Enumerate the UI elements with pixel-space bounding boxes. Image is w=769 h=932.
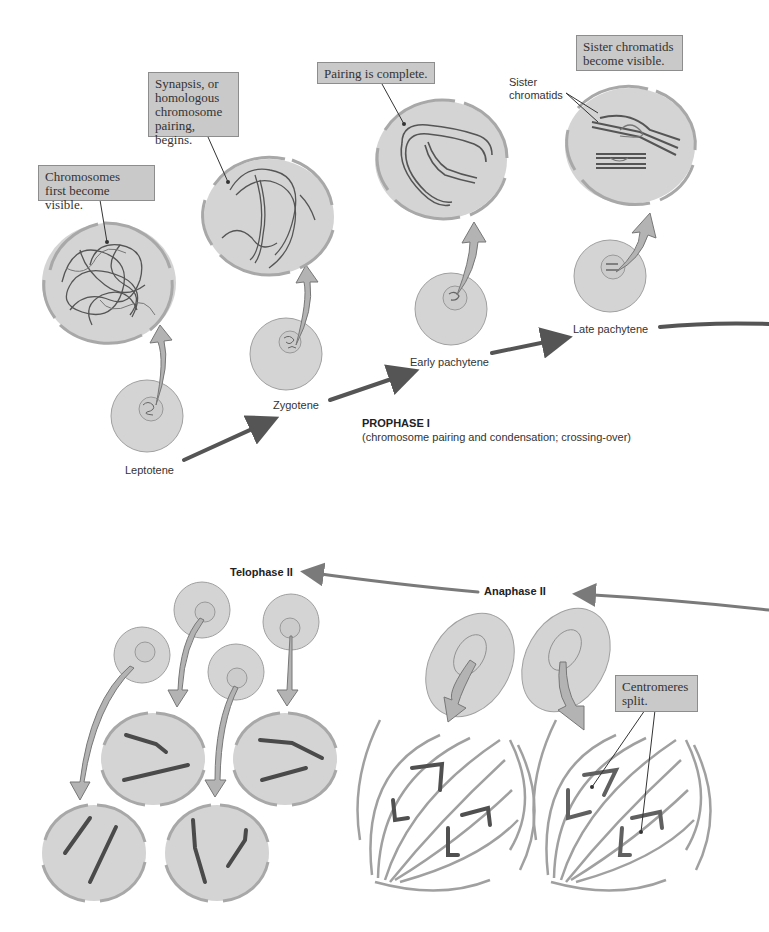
meiosis-diagram: Chromosomes first become visible. Synaps…: [0, 0, 769, 932]
leptotene-callout: Chromosomes first become visible.: [38, 165, 155, 201]
diagram-graphics: [0, 0, 769, 932]
leptotene-label: Leptotene: [125, 464, 174, 476]
zygotene-callout-pointer: [208, 137, 228, 182]
early-pachytene-callout: Pairing is complete.: [317, 62, 435, 84]
early-pachytene-small-cell: [415, 273, 487, 345]
zygotene-label: Zygotene: [273, 399, 319, 411]
anaphase-ii-chromosomes-right: [568, 770, 662, 855]
late-pachytene-callout: Sister chromatids become visible.: [576, 35, 683, 71]
anaphase-ii-small-cells: [408, 592, 628, 732]
telophase-ii-daughter-cells: [42, 713, 337, 901]
early-pachytene-label: Early pachytene: [410, 356, 489, 368]
leptotene-nucleus: [42, 223, 176, 343]
prophase-title: PROPHASE I: [362, 417, 430, 429]
telophase-ii-label: Telophase II: [230, 566, 293, 578]
anaphase-ii-chromosomes-left: [393, 764, 490, 855]
prophase-subtitle: (chromosome pairing and condensation; cr…: [362, 431, 631, 443]
anaphase-ii-spindle-left: [358, 720, 535, 891]
anaphase-ii-label: Anaphase II: [484, 585, 546, 597]
zygotene-nucleus: [203, 157, 334, 275]
late-pachytene-label: Late pachytene: [573, 323, 648, 335]
anaphase-ii-spindle-right: [534, 720, 711, 891]
leptotene-small-cell: [111, 380, 183, 452]
zygotene-callout: Synapsis, or homologous chromosome pairi…: [148, 72, 239, 137]
zygotene-small-cell: [250, 318, 322, 390]
early-pachytene-nucleus: [375, 100, 507, 219]
sister-chromatids-label: Sister chromatids: [509, 76, 563, 102]
centromeres-callout: Centromeres split.: [615, 675, 698, 712]
